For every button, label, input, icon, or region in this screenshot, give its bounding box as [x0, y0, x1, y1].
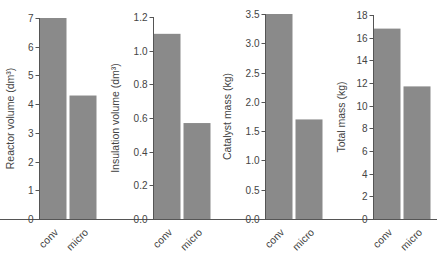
bar-conv — [154, 34, 181, 219]
y-tick-label: 1.5 — [246, 126, 260, 137]
y-tick-label: 2.5 — [246, 68, 260, 79]
y-tick-label: 0.4 — [134, 147, 148, 158]
y-tick-label: 4 — [28, 99, 34, 110]
y-tick-label: 2 — [362, 191, 368, 202]
y-tick-label: 3.0 — [246, 38, 260, 49]
y-tick-label: 0.2 — [134, 180, 148, 191]
bar-conv — [374, 29, 401, 219]
chart-panel-1: 01234567Reactor volume (dm³)convmicro — [4, 13, 97, 253]
y-tick-label: 0.0 — [134, 214, 148, 225]
chart-panel-2: 0.00.20.40.60.81.01.2Insulation volume (… — [109, 12, 211, 253]
bar-micro — [296, 119, 323, 219]
y-tick-label: 0 — [362, 214, 368, 225]
y-tick-label: 1.0 — [246, 155, 260, 166]
bar-conv — [40, 18, 67, 219]
y-tick-label: 4 — [362, 169, 368, 180]
y-tick-label: 16 — [356, 33, 368, 44]
y-tick-label: 0.0 — [246, 214, 260, 225]
y-tick-label: 1.2 — [134, 12, 148, 23]
x-category-label: micro — [64, 226, 91, 253]
chart-panel-4: 024681012141618Total mass (kg)convmicro — [335, 10, 431, 253]
x-category-label: micro — [178, 226, 205, 253]
x-category-label: conv — [36, 225, 61, 250]
x-category-label: conv — [262, 225, 287, 250]
y-tick-label: 0.8 — [134, 79, 148, 90]
x-category-label: conv — [150, 225, 175, 250]
y-axis-title: Catalyst mass (kg) — [221, 73, 233, 160]
y-axis-title: Total mass (kg) — [335, 81, 347, 152]
x-category-label: conv — [370, 225, 395, 250]
bar-micro — [404, 86, 431, 219]
y-tick-label: 1.0 — [134, 46, 148, 57]
y-tick-label: 8 — [362, 123, 368, 134]
y-tick-label: 3.5 — [246, 9, 260, 20]
y-tick-label: 3 — [28, 128, 34, 139]
y-tick-label: 2 — [28, 157, 34, 168]
bar-micro — [184, 123, 211, 219]
y-axis-title: Insulation volume (dm³) — [109, 63, 121, 173]
y-tick-label: 10 — [356, 101, 368, 112]
chart-panel-3: 0.00.51.01.52.02.53.03.5Catalyst mass (k… — [221, 9, 323, 253]
y-tick-label: 6 — [362, 146, 368, 157]
bar-chart-panels: 01234567Reactor volume (dm³)convmicro0.0… — [0, 0, 437, 261]
y-tick-label: 1 — [28, 185, 34, 196]
x-category-label: micro — [290, 226, 317, 253]
y-tick-label: 0.6 — [134, 113, 148, 124]
y-axis-title: Reactor volume (dm³) — [4, 68, 16, 170]
y-tick-label: 6 — [28, 42, 34, 53]
y-tick-label: 0 — [28, 214, 34, 225]
bar-conv — [266, 14, 293, 219]
bar-micro — [70, 96, 97, 219]
y-tick-label: 7 — [28, 13, 34, 24]
x-category-label: micro — [398, 226, 425, 253]
y-tick-label: 18 — [356, 10, 368, 21]
y-tick-label: 5 — [28, 70, 34, 81]
y-tick-label: 14 — [356, 55, 368, 66]
y-tick-label: 2.0 — [246, 97, 260, 108]
y-tick-label: 12 — [356, 78, 368, 89]
y-tick-label: 0.5 — [246, 185, 260, 196]
